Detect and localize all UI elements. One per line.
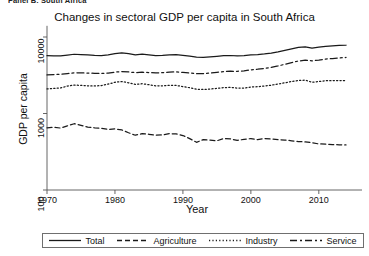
x-axis-tick-label: 2010 bbox=[309, 195, 329, 205]
x-axis-tick-label: 2000 bbox=[241, 195, 261, 205]
x-axis-tick-label: 1970 bbox=[37, 195, 57, 205]
y-axis-label: GDP per capita bbox=[17, 49, 29, 169]
legend-entry-service[interactable]: Service bbox=[290, 236, 356, 246]
x-axis-tick-label: 1990 bbox=[173, 195, 193, 205]
clipped-panel-caption: Panel B: South Africa bbox=[8, 0, 87, 3]
legend-label: Total bbox=[85, 236, 104, 246]
figure-container: Panel B: South Africa Changes in sectora… bbox=[0, 0, 369, 256]
chart-title: Changes in sectoral GDP per capita in So… bbox=[0, 11, 369, 23]
legend-entry-total[interactable]: Total bbox=[49, 236, 104, 246]
y-axis-tick-label: 10000 bbox=[36, 35, 46, 67]
legend-entry-agriculture[interactable]: Agriculture bbox=[117, 236, 196, 246]
legend-label: Service bbox=[326, 236, 356, 246]
legend-entry-industry[interactable]: Industry bbox=[209, 236, 277, 246]
legend-swatch-service-icon bbox=[290, 237, 322, 244]
series-line-service bbox=[47, 57, 346, 74]
y-axis-tick-label: 1000 bbox=[36, 112, 46, 144]
x-axis-tick-label: 1980 bbox=[105, 195, 125, 205]
legend-label: Industry bbox=[245, 236, 277, 246]
series-line-industry bbox=[47, 80, 346, 89]
plot-area bbox=[0, 0, 369, 256]
legend-label: Agriculture bbox=[153, 236, 196, 246]
chart-legend: TotalAgricultureIndustryService bbox=[42, 233, 364, 248]
x-axis-label: Year bbox=[47, 203, 347, 215]
series-line-total bbox=[47, 45, 346, 57]
legend-swatch-agriculture-icon bbox=[117, 237, 149, 244]
legend-swatch-total-icon bbox=[49, 237, 81, 244]
legend-swatch-industry-icon bbox=[209, 237, 241, 244]
series-line-agriculture bbox=[47, 124, 346, 145]
